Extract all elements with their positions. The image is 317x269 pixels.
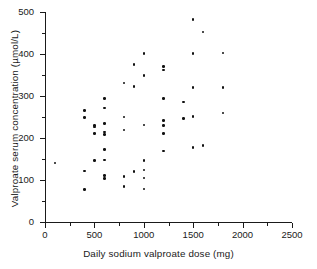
- y-tick-minor: [42, 33, 45, 34]
- plot-area: [45, 12, 292, 222]
- y-tick-major: [40, 12, 45, 13]
- data-point: [162, 69, 165, 72]
- x-tick-label: 1000: [122, 230, 166, 240]
- data-point: [143, 159, 146, 162]
- data-point: [123, 175, 126, 178]
- data-point: [83, 109, 86, 112]
- data-point: [182, 117, 185, 120]
- data-point: [143, 74, 146, 77]
- data-point: [83, 188, 86, 191]
- data-point: [162, 97, 165, 100]
- data-point: [103, 133, 106, 136]
- data-point: [103, 122, 106, 125]
- data-point: [83, 116, 86, 119]
- data-point: [222, 86, 225, 89]
- data-point: [103, 148, 106, 151]
- x-tick-label: 0: [23, 230, 67, 240]
- data-point: [143, 52, 146, 55]
- x-tick-label: 2000: [221, 230, 265, 240]
- data-point: [182, 101, 185, 104]
- x-tick-minor: [70, 223, 71, 226]
- y-tick-major: [40, 96, 45, 97]
- y-tick-major: [40, 54, 45, 55]
- x-axis-title: Daily sodium valproate dose (mg): [0, 248, 317, 259]
- data-point: [103, 177, 106, 180]
- x-tick-major: [193, 223, 194, 228]
- x-tick-label: 1500: [171, 230, 215, 240]
- data-point: [133, 170, 136, 173]
- data-point: [103, 97, 106, 100]
- x-tick-label: 2500: [270, 230, 314, 240]
- y-axis-line: [45, 12, 46, 222]
- x-tick-minor: [169, 223, 170, 226]
- data-point: [162, 119, 165, 122]
- scatter-plot-figure: 0100200300400500 05001000150020002500 Da…: [0, 0, 317, 269]
- x-tick-major: [292, 223, 293, 228]
- y-tick-major: [40, 180, 45, 181]
- data-point: [162, 124, 165, 127]
- y-tick-minor: [42, 117, 45, 118]
- data-point: [103, 159, 106, 162]
- data-point: [162, 65, 165, 68]
- data-point: [93, 132, 96, 135]
- y-tick-minor: [42, 201, 45, 202]
- x-tick-major: [45, 223, 46, 228]
- x-tick-major: [243, 223, 244, 228]
- x-tick-major: [144, 223, 145, 228]
- data-point: [162, 132, 165, 135]
- y-tick-minor: [42, 75, 45, 76]
- x-tick-label: 500: [72, 230, 116, 240]
- data-point: [133, 63, 136, 66]
- data-point: [93, 159, 96, 162]
- x-tick-minor: [119, 223, 120, 226]
- x-tick-minor: [267, 223, 268, 226]
- y-tick-major: [40, 138, 45, 139]
- x-tick-minor: [218, 223, 219, 226]
- x-tick-major: [94, 223, 95, 228]
- y-axis-title: Valproate serum concentration (µmol/L): [9, 9, 20, 229]
- y-tick-minor: [42, 159, 45, 160]
